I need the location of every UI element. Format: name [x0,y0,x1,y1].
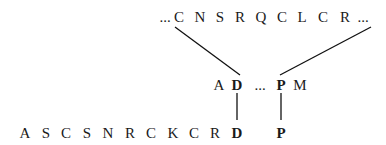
top-residue: N [195,10,206,25]
middle-ellipsis: ... [254,78,265,93]
bottom-residue: S [42,126,50,141]
top-residue: S [216,10,224,25]
middle-residue-highlighted: P [276,78,285,93]
bottom-residue-highlighted: D [232,126,243,141]
bottom-residue: N [103,126,114,141]
connector-top-right-to-P [280,27,371,75]
connector-top-left-to-D [175,27,240,75]
top-residue: C [277,10,287,25]
middle-residue: M [293,78,306,93]
middle-residue-highlighted: D [232,78,243,93]
top-trailing-ellipsis: ... [357,10,368,25]
bottom-residue: C [189,126,199,141]
top-residue: Q [256,10,267,25]
bottom-residue: C [61,126,71,141]
top-residue: R [235,10,245,25]
bottom-residue: A [20,126,31,141]
top-leading-ellipsis: ... [159,10,170,25]
bottom-residue-highlighted: P [276,126,285,141]
bottom-residue: R [210,126,220,141]
top-residue: R [340,10,350,25]
middle-residue: A [214,78,225,93]
bottom-residue: K [168,126,179,141]
top-residue: C [174,10,184,25]
top-residue: C [318,10,328,25]
bottom-residue: C [146,126,156,141]
bottom-residue: R [125,126,135,141]
top-residue: L [297,10,306,25]
bottom-residue: S [83,126,91,141]
connector-lines [0,0,386,145]
